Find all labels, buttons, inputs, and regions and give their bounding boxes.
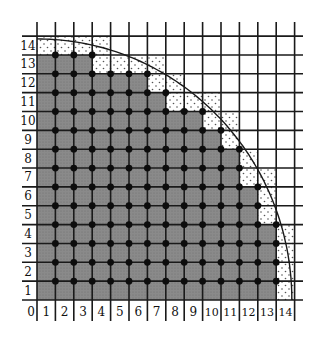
gray-cell [92,262,110,281]
lattice-point [236,165,243,172]
gray-cell [37,149,55,168]
gray-cell [92,149,110,168]
lattice-point [107,259,114,266]
lattice-point [218,146,225,153]
lattice-point [126,259,133,266]
y-axis-label: 9 [24,133,32,147]
lattice-point [89,202,96,209]
x-axis-label: 8 [171,305,179,319]
lattice-point [70,165,77,172]
gray-cell [92,243,110,262]
lattice-point [144,221,151,228]
gray-cell [258,281,276,300]
lattice-point [126,165,133,172]
lattice-point [199,108,206,115]
gray-cell [55,187,73,206]
lattice-circle-diagram: 01234567891011121314 1234567891011121314 [0,0,319,337]
gray-cell [147,243,165,262]
lattice-point [144,146,151,153]
lattice-point [144,127,151,134]
gray-cell [147,206,165,225]
lattice-point [107,127,114,134]
gray-cell [166,187,184,206]
gray-cell [37,281,55,300]
gray-cell [111,281,129,300]
gray-cell [129,112,147,131]
gray-cell [129,206,147,225]
gray-cell [37,168,55,187]
gray-cell [55,130,73,149]
stippled-cell [239,168,257,187]
gray-cell [37,112,55,131]
lattice-point [199,259,206,266]
gray-cell [166,262,184,281]
lattice-point [181,184,188,191]
gray-cell [147,130,165,149]
lattice-point [107,184,114,191]
gray-cell [221,262,239,281]
lattice-point [181,202,188,209]
lattice-point [218,127,225,134]
gray-cell [129,130,147,149]
lattice-point [52,146,59,153]
lattice-point [144,89,151,96]
lattice-point [144,202,151,209]
y-axis-label: 8 [24,152,32,166]
lattice-point [162,146,169,153]
lattice-point [273,259,280,266]
gray-cell [74,74,92,93]
gray-cell [55,74,73,93]
x-axis-label: 10 [205,306,219,319]
lattice-point [236,202,243,209]
gray-cell [74,149,92,168]
lattice-point [254,221,261,228]
lattice-point [199,278,206,285]
gray-cell [258,225,276,244]
lattice-point [52,70,59,77]
gray-cell [239,262,257,281]
stippled-cell [203,112,221,131]
lattice-point [254,184,261,191]
gray-cell [74,243,92,262]
gray-cell [166,281,184,300]
lattice-point [70,52,77,59]
gray-cell [239,187,257,206]
gray-cell [221,206,239,225]
lattice-point [70,240,77,247]
lattice-point [89,278,96,285]
lattice-point [199,165,206,172]
gray-cell [74,168,92,187]
lattice-point [89,108,96,115]
lattice-point [70,89,77,96]
gray-cell [92,281,110,300]
stippled-cell [203,93,221,112]
stippled-cell [276,243,294,262]
lattice-point [181,221,188,228]
lattice-point [126,146,133,153]
lattice-point [52,108,59,115]
lattice-point [126,221,133,228]
lattice-point [144,70,151,77]
lattice-point [70,108,77,115]
x-axis-label: 0 [27,305,35,319]
lattice-point [144,165,151,172]
x-axis-label: 3 [79,305,87,319]
lattice-point [273,240,280,247]
gray-cell [203,149,221,168]
lattice-point [199,146,206,153]
gray-cell [37,225,55,244]
gray-cell [92,187,110,206]
stippled-cell [221,130,239,149]
y-axis-label: 14 [20,39,36,53]
lattice-point [107,146,114,153]
lattice-point [199,202,206,209]
lattice-point [162,127,169,134]
lattice-point [89,259,96,266]
gray-cell [166,243,184,262]
gray-cell [111,93,129,112]
gray-cell [37,55,55,74]
gray-cell [129,281,147,300]
lattice-point [181,240,188,247]
diagram-canvas: 01234567891011121314 1234567891011121314 [0,0,319,337]
lattice-point [236,259,243,266]
